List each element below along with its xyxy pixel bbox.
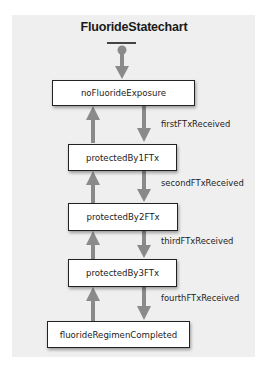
- state-label: noFluorideExposure: [81, 88, 166, 98]
- arrow-down-first: [137, 106, 151, 142]
- state-label: fluorideRegimenCompleted: [60, 330, 177, 340]
- arrow-up-2-to-1: [86, 171, 100, 203]
- arrow-up-3-to-2: [86, 231, 100, 259]
- state-protected-by-1ftx: protectedBy1FTx: [68, 144, 177, 171]
- initial-state-dot-icon: [115, 46, 129, 80]
- transition-label-third: thirdFTxReceived: [161, 236, 233, 246]
- arrow-down-fourth: [137, 287, 151, 320]
- state-label: protectedBy1FTx: [86, 153, 159, 163]
- transition-label-fourth: fourthFTxReceived: [161, 293, 239, 303]
- state-fluoride-regimen-completed: fluorideRegimenCompleted: [47, 321, 190, 348]
- state-protected-by-2ftx: protectedBy2FTx: [68, 203, 178, 231]
- arrow-up-4-to-3: [86, 287, 100, 321]
- arrow-up-1-to-0: [86, 106, 100, 143]
- state-protected-by-3ftx: protectedBy3FTx: [68, 259, 177, 287]
- arrow-down-second: [137, 171, 151, 202]
- state-label: protectedBy2FTx: [86, 212, 159, 222]
- state-no-fluoride-exposure: noFluorideExposure: [52, 80, 195, 106]
- transition-label-second: secondFTxReceived: [161, 178, 244, 188]
- state-label: protectedBy3FTx: [86, 268, 159, 278]
- transition-label-first: firstFTxReceived: [161, 119, 230, 129]
- arrow-down-third: [137, 231, 151, 258]
